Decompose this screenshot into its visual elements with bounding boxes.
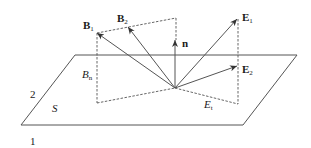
- b1-tangential-projection: [97, 88, 175, 103]
- vector-e1: [175, 19, 237, 88]
- interface-plane: [21, 55, 297, 125]
- vector-b2: [128, 27, 175, 88]
- label-medium-1: 1: [30, 135, 36, 147]
- label-e2: E2: [242, 63, 253, 77]
- label-b1: B1: [83, 19, 94, 33]
- label-surface-s: S: [52, 102, 58, 114]
- label-e1: E1: [242, 11, 253, 25]
- interface-diagram: B1 B2 n E1 E2 Bn Et S 2 1: [0, 0, 311, 148]
- label-bn: Bn: [82, 68, 93, 82]
- b-top-dashed: [97, 18, 176, 33]
- label-medium-2: 2: [30, 88, 36, 100]
- vector-b1: [97, 33, 175, 88]
- label-n: n: [182, 37, 188, 49]
- label-et: Et: [203, 98, 213, 112]
- label-b2: B2: [117, 12, 128, 26]
